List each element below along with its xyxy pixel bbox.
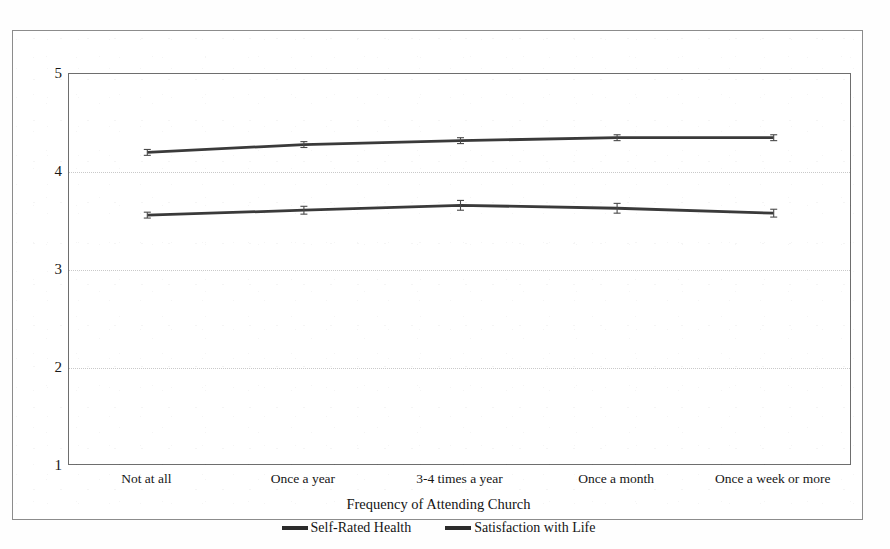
series-satisfaction-with-life (144, 135, 777, 156)
legend-swatch-icon (445, 526, 471, 529)
x-tick-label: Once a week or more (715, 471, 830, 487)
y-tick-label: 3 (36, 262, 62, 277)
x-tick-label: Once a year (271, 471, 335, 487)
plot-area (68, 73, 851, 465)
y-axis-tick-labels: 54321 (30, 73, 62, 465)
chart-legend: Self-Rated Health Satisfaction with Life (13, 520, 864, 536)
figure-canvas: 54321 Not at allOnce a year3-4 times a y… (0, 0, 890, 549)
x-tick-label: 3-4 times a year (416, 471, 503, 487)
legend-swatch-icon (282, 526, 308, 529)
data-series-layer (69, 74, 852, 466)
y-tick-label: 5 (36, 66, 62, 81)
figure-outer-border: 54321 Not at allOnce a year3-4 times a y… (12, 30, 863, 520)
x-tick-label: Once a month (578, 471, 654, 487)
x-axis-tick-labels: Not at allOnce a year3-4 times a yearOnc… (68, 471, 851, 493)
legend-label: Self-Rated Health (311, 520, 412, 536)
series-self-rated-health (144, 200, 777, 218)
legend-label: Satisfaction with Life (474, 520, 595, 536)
y-tick-label: 4 (36, 164, 62, 179)
y-tick-label: 1 (36, 458, 62, 473)
y-tick-label: 2 (36, 360, 62, 375)
x-axis-title: Frequency of Attending Church (13, 495, 864, 513)
legend-item-satisfaction-with-life: Satisfaction with Life (445, 520, 595, 536)
x-tick-label: Not at all (121, 471, 171, 487)
legend-item-self-rated-health: Self-Rated Health (282, 520, 412, 536)
